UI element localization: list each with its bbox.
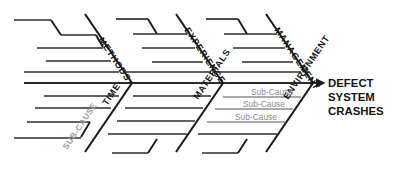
fishbone-canvas: METHODS TIME SUB-CAUSE EXPERIENCE bbox=[0, 0, 393, 192]
category-branch-environment: ENVIRONMENT Sub-Cause Sub-Cause Sub-Caus… bbox=[198, 33, 332, 153]
management-sub-tick-1 bbox=[238, 19, 247, 34]
effect-line-2: SYSTEM bbox=[328, 91, 375, 103]
fishbone-diagram: METHODS TIME SUB-CAUSE EXPERIENCE bbox=[0, 0, 393, 192]
methods-label: METHODS bbox=[96, 36, 132, 83]
materials-label: MATERIALS bbox=[191, 47, 232, 101]
environment-subcause-label-3: Sub-Cause bbox=[235, 112, 277, 122]
methods-sub-tick-1 bbox=[51, 20, 61, 35]
effect-line-3: CRASHES bbox=[328, 105, 384, 117]
effect-line-1: DEFECT bbox=[328, 77, 374, 89]
effect-head-group: DEFECT SYSTEM CRASHES bbox=[328, 77, 384, 117]
environment-subcause-label-2: Sub-Cause bbox=[243, 99, 285, 109]
environment-subcause-label-1: Sub-Cause bbox=[251, 87, 293, 97]
category-branch-methods: METHODS bbox=[14, 14, 133, 83]
experience-sub-tick-1 bbox=[148, 19, 157, 34]
environment-sub-tick-1 bbox=[238, 139, 247, 153]
category-branch-time: TIME SUB-CAUSE bbox=[14, 81, 132, 152]
materials-sub-tick-1 bbox=[148, 139, 157, 153]
